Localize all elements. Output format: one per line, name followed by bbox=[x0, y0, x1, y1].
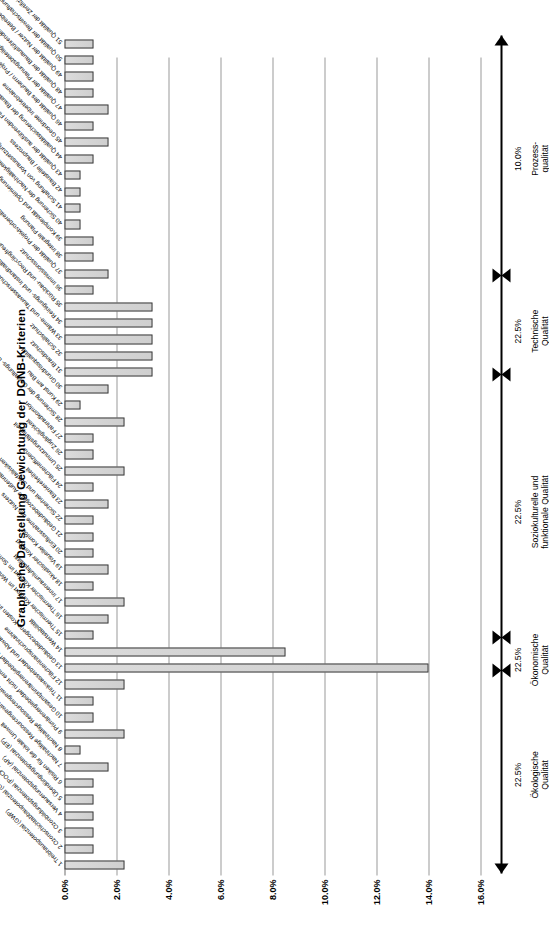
bar bbox=[64, 663, 428, 672]
bar bbox=[64, 334, 152, 343]
axis-tick-label: 2.0% bbox=[111, 879, 121, 935]
bar bbox=[64, 827, 93, 836]
bar bbox=[64, 794, 93, 803]
bar bbox=[64, 351, 152, 360]
bar bbox=[64, 39, 93, 48]
bar bbox=[64, 532, 93, 541]
bar bbox=[64, 466, 124, 475]
bar bbox=[64, 187, 80, 196]
bar bbox=[64, 154, 93, 163]
group-weight-label: 22.5% bbox=[512, 734, 522, 814]
bar bbox=[64, 548, 93, 557]
bar bbox=[64, 762, 108, 771]
bar bbox=[64, 515, 93, 524]
group-label: Prozess- qualität bbox=[530, 68, 549, 248]
bar bbox=[64, 581, 93, 590]
axis-tick-label: 14.0% bbox=[423, 879, 433, 935]
bar bbox=[64, 860, 124, 869]
axis-arrowhead bbox=[494, 36, 508, 46]
bar bbox=[64, 137, 108, 146]
group-weight-label: 22.5% bbox=[512, 291, 522, 371]
bar bbox=[64, 597, 124, 606]
bar bbox=[64, 219, 80, 228]
axis-tick-label: 4.0% bbox=[163, 879, 173, 935]
gridline bbox=[168, 57, 169, 875]
gridline bbox=[376, 57, 377, 875]
gridline bbox=[428, 57, 429, 875]
bar bbox=[64, 745, 80, 754]
bar bbox=[64, 318, 152, 327]
bar bbox=[64, 302, 152, 311]
group-separator-arrow bbox=[492, 663, 501, 677]
bar bbox=[64, 630, 93, 639]
bar bbox=[64, 844, 93, 853]
group-axis-line bbox=[500, 35, 502, 873]
axis-tick-label: 16.0% bbox=[475, 879, 485, 935]
bar bbox=[64, 679, 124, 688]
axis-tick-label: 0.0% bbox=[59, 879, 69, 935]
bar bbox=[64, 433, 93, 442]
bar bbox=[64, 121, 93, 130]
gridline bbox=[220, 57, 221, 875]
bar bbox=[64, 614, 108, 623]
bar bbox=[64, 778, 93, 787]
bar bbox=[64, 252, 93, 261]
axis-tick-label: 10.0% bbox=[319, 879, 329, 935]
bar bbox=[64, 367, 152, 376]
bar bbox=[64, 696, 93, 705]
group-separator-arrow bbox=[501, 367, 510, 381]
bar bbox=[64, 564, 108, 573]
group-separator-arrow bbox=[501, 663, 510, 677]
bar bbox=[64, 72, 93, 81]
axis-tick-label: 6.0% bbox=[215, 879, 225, 935]
group-separator-arrow bbox=[492, 630, 501, 644]
bar bbox=[64, 88, 93, 97]
gridline bbox=[480, 57, 481, 875]
bar bbox=[64, 499, 108, 508]
bar bbox=[64, 647, 285, 656]
gridline bbox=[324, 57, 325, 875]
bar bbox=[64, 384, 108, 393]
bar bbox=[64, 417, 124, 426]
group-label: Technische Qualität bbox=[530, 241, 549, 421]
bar bbox=[64, 236, 93, 245]
group-separator-arrow bbox=[501, 630, 510, 644]
bar bbox=[64, 400, 80, 409]
bar bbox=[64, 712, 93, 721]
axis-tick-label: 8.0% bbox=[267, 879, 277, 935]
bar bbox=[64, 285, 93, 294]
group-weight-label: 22.5% bbox=[512, 619, 522, 699]
bar bbox=[64, 203, 80, 212]
group-separator-arrow bbox=[492, 367, 501, 381]
bar bbox=[64, 811, 93, 820]
group-separator-arrow bbox=[501, 268, 510, 282]
bar bbox=[64, 104, 108, 113]
axis-arrowhead bbox=[494, 863, 508, 873]
bar bbox=[64, 449, 93, 458]
group-separator-arrow bbox=[492, 268, 501, 282]
bar bbox=[64, 269, 108, 278]
bar bbox=[64, 482, 93, 491]
group-weight-label: 10.0% bbox=[512, 118, 522, 198]
group-weight-label: 22.5% bbox=[512, 472, 522, 552]
axis-tick-label: 12.0% bbox=[371, 879, 381, 935]
bar bbox=[64, 55, 93, 64]
group-label: Soziokulturelle und funktionale Qualität bbox=[530, 422, 549, 602]
bar bbox=[64, 729, 124, 738]
gridline bbox=[272, 57, 273, 875]
bar bbox=[64, 170, 80, 179]
